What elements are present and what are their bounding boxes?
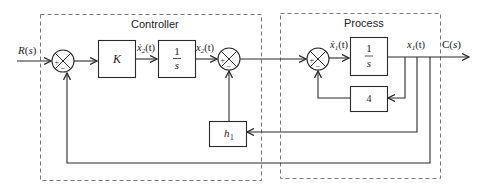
svg-text:1: 1 bbox=[366, 42, 372, 54]
minus-sign: − bbox=[227, 62, 232, 71]
summing-junction-3: + − bbox=[307, 48, 329, 71]
integrator-block-controller: 1 s bbox=[159, 41, 196, 78]
svg-text:x1(t): x1(t) bbox=[406, 39, 426, 52]
gain-block-k: K bbox=[99, 41, 136, 78]
svg-text:x2(t): x2(t) bbox=[195, 42, 215, 55]
x1-to-h1-arrow bbox=[247, 57, 417, 132]
process-title: Process bbox=[344, 17, 384, 29]
x2-label: x2(t) bbox=[195, 42, 215, 55]
output-label: C(s) bbox=[442, 38, 461, 51]
svg-text:ẋ2(t): ẋ2(t) bbox=[136, 42, 156, 55]
plus-sign: + bbox=[221, 56, 226, 65]
svg-text:K: K bbox=[112, 52, 122, 66]
svg-text:1: 1 bbox=[174, 45, 180, 57]
plus-sign: + bbox=[55, 58, 60, 67]
svg-text:s: s bbox=[367, 57, 371, 69]
minus-sign: − bbox=[61, 64, 66, 73]
x2dot-label: ẋ2(t) bbox=[136, 42, 156, 55]
svg-text:1: 1 bbox=[230, 133, 234, 142]
x1-to-gain4-arrow bbox=[388, 57, 405, 98]
summing-junction-1: + − bbox=[52, 50, 74, 73]
svg-text:C(s): C(s) bbox=[442, 38, 461, 51]
gain-block-4: 4 bbox=[351, 87, 388, 112]
integrator-block-process: 1 s bbox=[351, 38, 388, 76]
svg-text:ẋ1(t): ẋ1(t) bbox=[329, 39, 349, 52]
plus-sign: + bbox=[310, 56, 315, 65]
x1-label: x1(t) bbox=[406, 39, 426, 52]
svg-text:R(s): R(s) bbox=[17, 44, 37, 57]
summing-junction-2: + − bbox=[218, 48, 240, 71]
gain-block-h1: h 1 bbox=[210, 122, 247, 147]
controller-title: Controller bbox=[131, 18, 179, 30]
minus-sign: − bbox=[316, 62, 321, 71]
gain4-to-sum3-arrow bbox=[318, 71, 350, 98]
block-diagram: Controller Process + − bbox=[0, 0, 481, 193]
svg-text:4: 4 bbox=[367, 93, 372, 104]
svg-text:s: s bbox=[175, 59, 179, 71]
input-label: R(s) bbox=[17, 44, 37, 57]
controller-group: Controller bbox=[41, 15, 262, 181]
x1dot-label: ẋ1(t) bbox=[329, 39, 349, 52]
